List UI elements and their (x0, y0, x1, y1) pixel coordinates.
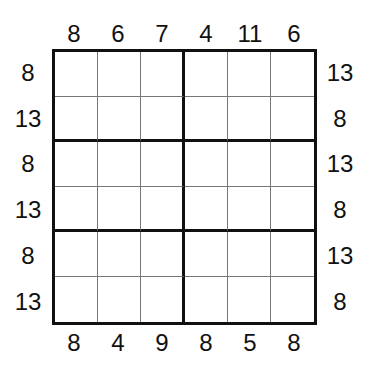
left-clue: 13 (8, 107, 48, 131)
grid-cell[interactable] (141, 187, 184, 232)
grid-cell[interactable] (55, 142, 98, 187)
right-clue: 8 (318, 290, 362, 314)
top-clue: 8 (54, 22, 94, 46)
grid-cell[interactable] (185, 232, 228, 277)
grid-cell[interactable] (55, 232, 98, 277)
grid-cell[interactable] (55, 277, 98, 322)
bottom-clue: 8 (186, 331, 226, 355)
grid-cell[interactable] (55, 52, 98, 97)
grid-cell[interactable] (271, 142, 314, 187)
grid-cell[interactable] (185, 97, 228, 142)
grid-cell[interactable] (98, 142, 141, 187)
top-clue: 7 (142, 22, 182, 46)
grid-cell[interactable] (98, 187, 141, 232)
grid-cell[interactable] (98, 52, 141, 97)
top-clue: 6 (98, 22, 138, 46)
grid-cell[interactable] (228, 232, 271, 277)
left-clue: 13 (8, 198, 48, 222)
grid-cell[interactable] (228, 277, 271, 322)
grid-cell[interactable] (141, 97, 184, 142)
left-clue: 8 (8, 244, 48, 268)
puzzle-grid (52, 49, 317, 325)
left-clue: 8 (8, 61, 48, 85)
grid-cell[interactable] (185, 142, 228, 187)
bottom-clue: 5 (230, 331, 270, 355)
grid-cell[interactable] (228, 142, 271, 187)
right-clue: 13 (318, 61, 362, 85)
bottom-clue: 8 (54, 331, 94, 355)
right-clue: 8 (318, 107, 362, 131)
grid-cell[interactable] (141, 232, 184, 277)
grid-cell[interactable] (271, 277, 314, 322)
grid-cell[interactable] (271, 97, 314, 142)
grid-cell[interactable] (98, 97, 141, 142)
grid-cell[interactable] (185, 187, 228, 232)
right-clue: 13 (318, 244, 362, 268)
grid-cell[interactable] (271, 187, 314, 232)
grid-cell[interactable] (271, 232, 314, 277)
right-clue: 13 (318, 152, 362, 176)
bottom-clue: 9 (142, 331, 182, 355)
top-clue: 4 (186, 22, 226, 46)
top-clue: 6 (274, 22, 314, 46)
left-clue: 8 (8, 152, 48, 176)
bottom-clue: 8 (274, 331, 314, 355)
grid-cell[interactable] (228, 97, 271, 142)
left-clue: 13 (8, 290, 48, 314)
grid-cell[interactable] (141, 142, 184, 187)
bottom-clue: 4 (98, 331, 138, 355)
grid-cell[interactable] (228, 187, 271, 232)
grid-cell[interactable] (98, 277, 141, 322)
grid-cell[interactable] (228, 52, 271, 97)
grid-cell[interactable] (55, 187, 98, 232)
top-clue: 11 (230, 22, 270, 46)
grid-cell[interactable] (141, 52, 184, 97)
right-clue: 8 (318, 198, 362, 222)
grid-cell[interactable] (185, 52, 228, 97)
grid-cell[interactable] (55, 97, 98, 142)
grid-cell[interactable] (141, 277, 184, 322)
grid-cell[interactable] (98, 232, 141, 277)
grid-cell[interactable] (271, 52, 314, 97)
grid-cell[interactable] (185, 277, 228, 322)
